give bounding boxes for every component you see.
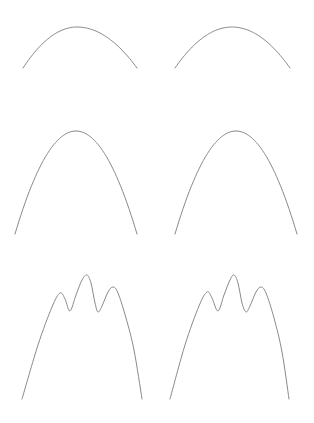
background (0, 0, 314, 423)
figure-canvas (0, 0, 314, 423)
